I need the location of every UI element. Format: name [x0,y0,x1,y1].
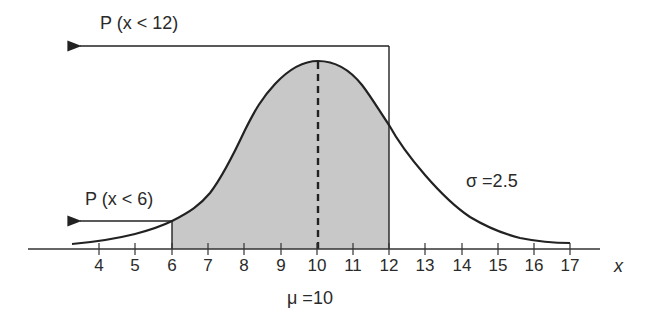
label-p-x-less-12: P (x < 12) [100,13,178,34]
tick-label: 14 [453,256,472,276]
tick-label: 6 [167,256,176,276]
tick-label: 16 [525,256,544,276]
label-sigma: σ =2.5 [466,171,518,192]
normal-distribution-chart: 4 5 6 7 8 9 10 11 12 13 14 15 16 17 P (x… [0,0,645,326]
tick-label: 4 [94,256,103,276]
tick-label: 17 [561,256,580,276]
tick-label: 8 [239,256,248,276]
label-p-x-less-6: P (x < 6) [85,189,153,210]
tick-label: 11 [344,256,362,276]
tick-label: 10 [308,256,327,276]
x-axis-label: x [614,256,623,277]
shaded-area [172,61,389,249]
tick-label: 7 [203,256,212,276]
tick-label: 12 [380,256,399,276]
tick-label: 5 [130,256,139,276]
label-mu: μ =10 [287,288,333,309]
chart-svg [0,0,645,326]
tick-label: 15 [489,256,508,276]
tick-label: 13 [416,256,435,276]
tick-label: 9 [276,256,285,276]
